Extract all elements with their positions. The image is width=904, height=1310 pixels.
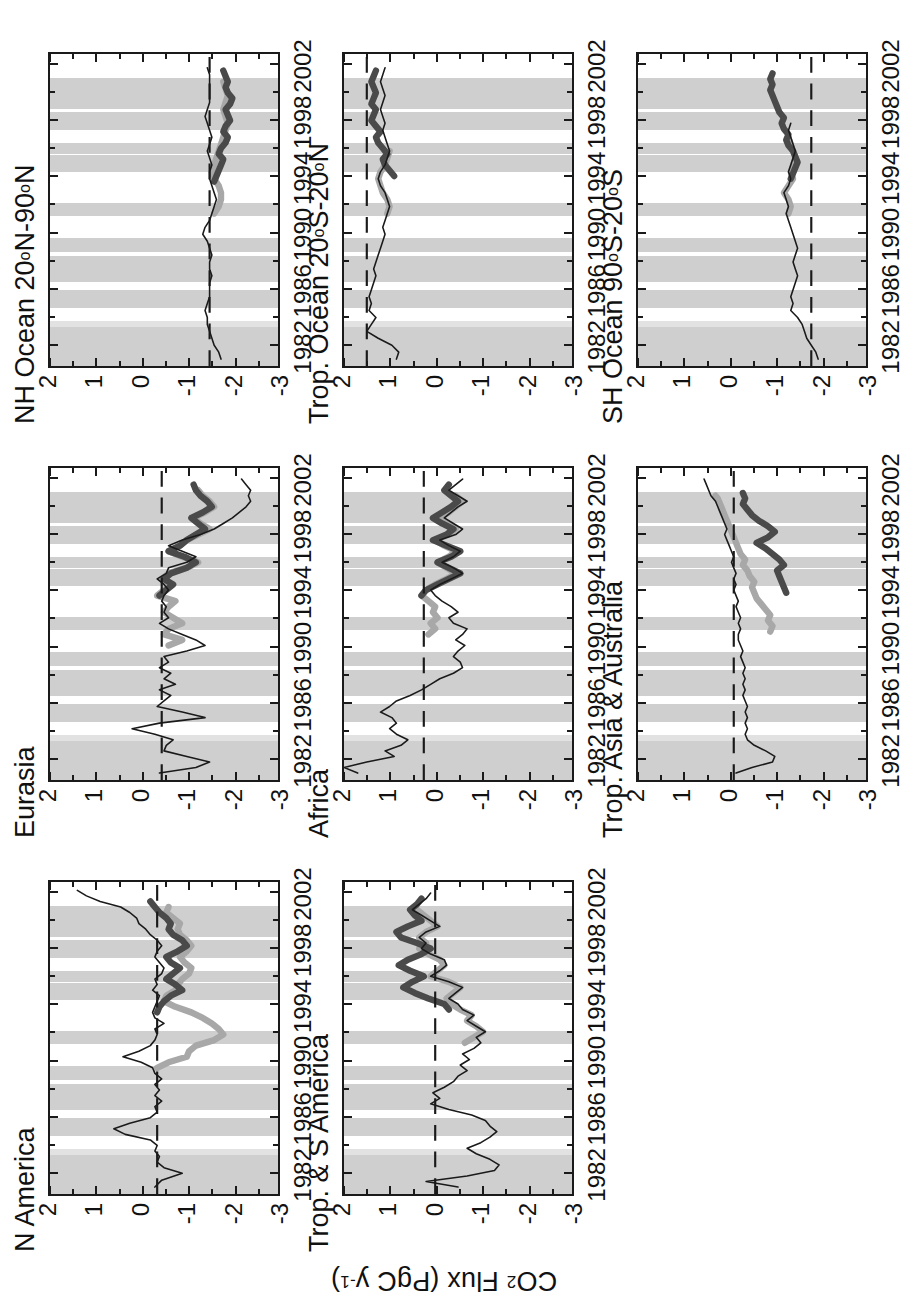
y-tick-mark-minor-right xyxy=(366,882,368,887)
y-tick-label: -2 xyxy=(514,1203,542,1224)
y-tick-mark xyxy=(343,358,345,366)
y-tick-mark-minor xyxy=(72,361,74,366)
panel-title-sh-ocean: SH Ocean 90oS-20oS xyxy=(592,50,634,424)
x-tick-mark-top xyxy=(344,477,352,479)
series-layer-trop-ocean xyxy=(344,54,572,366)
x-tick-mark-top xyxy=(344,344,352,346)
x-tick-mark xyxy=(564,232,572,234)
y-tick-label: 1 xyxy=(80,1203,108,1216)
panel-trop-s-america: Trop. & S America210-1-2-319821986199019… xyxy=(298,878,690,1252)
x-tick-mark-minor xyxy=(567,674,572,676)
y-tick-mark xyxy=(389,1186,391,1194)
y-tick-mark-right xyxy=(389,468,391,476)
y-tick-mark-minor xyxy=(505,775,507,780)
y-tick-label: 2 xyxy=(622,789,650,802)
y-tick-mark xyxy=(683,772,685,780)
x-tick-mark-top xyxy=(344,533,352,535)
x-tick-mark-top xyxy=(50,288,58,290)
x-tick-mark-top xyxy=(638,589,646,591)
y-tick-mark xyxy=(95,1186,97,1194)
y-tick-mark-minor xyxy=(119,775,121,780)
x-tick-mark-top xyxy=(50,589,58,591)
x-tick-mark xyxy=(270,758,278,760)
y-tick-mark-right xyxy=(142,54,144,62)
x-tick-mark-minor xyxy=(567,1032,572,1034)
x-tick-mark-top xyxy=(638,288,646,290)
y-tick-mark xyxy=(235,1186,237,1194)
x-tick-label: 1986 xyxy=(877,678,904,731)
y-tick-mark xyxy=(188,358,190,366)
x-tick-mark-minor-top xyxy=(50,91,55,93)
x-tick-mark xyxy=(564,288,572,290)
y-tick-mark-minor xyxy=(799,775,801,780)
y-tick-mark xyxy=(482,772,484,780)
x-tick-mark xyxy=(564,63,572,65)
x-tick-mark-top xyxy=(638,702,646,704)
x-tick-mark xyxy=(858,533,866,535)
y-tick-mark xyxy=(637,358,639,366)
y-tick-label: -3 xyxy=(854,789,882,810)
y-tick-mark-right xyxy=(683,468,685,476)
y-tick-label: 2 xyxy=(34,1203,62,1216)
y-tick-mark-minor-right xyxy=(258,468,260,473)
x-tick-mark-top xyxy=(638,119,646,121)
x-tick-mark-minor-top xyxy=(344,618,349,620)
y-tick-mark-minor-right xyxy=(799,468,801,473)
y-tick-mark-minor xyxy=(753,361,755,366)
y-tick-mark-minor-right xyxy=(366,54,368,59)
y-tick-mark xyxy=(142,772,144,780)
y-tick-label: -1 xyxy=(173,789,201,810)
plot-area-trop-s-america: 210-1-2-3198219861990199419982002 xyxy=(342,880,574,1196)
y-tick-mark xyxy=(683,358,685,366)
x-tick-mark xyxy=(270,477,278,479)
y-tick-mark xyxy=(637,772,639,780)
x-tick-mark-minor-top xyxy=(638,674,643,676)
y-tick-mark-minor xyxy=(165,1189,167,1194)
x-tick-mark-minor xyxy=(567,147,572,149)
y-tick-mark-minor-right xyxy=(413,882,415,887)
series-layer-trop-asia-australia xyxy=(638,468,866,780)
x-tick-mark xyxy=(858,63,866,65)
y-tick-label: 2 xyxy=(34,789,62,802)
x-tick-mark-top xyxy=(344,758,352,760)
x-tick-mark-minor xyxy=(861,561,866,563)
x-tick-mark-minor xyxy=(861,730,866,732)
x-tick-mark-minor xyxy=(567,1144,572,1146)
y-tick-mark-minor xyxy=(846,775,848,780)
y-tick-label: 0 xyxy=(715,375,743,388)
x-tick-mark xyxy=(564,1003,572,1005)
x-tick-mark xyxy=(270,288,278,290)
x-tick-mark xyxy=(564,344,572,346)
panel-title-africa: Africa xyxy=(298,464,340,838)
y-axis-label-subscript: 2 xyxy=(507,1271,517,1291)
x-tick-label: 1994 xyxy=(877,152,904,205)
x-tick-mark-minor-top xyxy=(638,204,643,206)
x-tick-mark-top xyxy=(50,533,58,535)
series-thin-black xyxy=(367,68,399,359)
y-tick-mark xyxy=(529,358,531,366)
y-tick-mark-minor xyxy=(258,361,260,366)
x-tick-mark-minor xyxy=(567,204,572,206)
x-tick-mark-minor-top xyxy=(50,919,55,921)
x-tick-mark-top xyxy=(638,477,646,479)
x-tick-mark-minor xyxy=(273,260,278,262)
y-tick-label: 2 xyxy=(328,789,356,802)
y-tick-mark-minor-right xyxy=(552,54,554,59)
y-tick-mark-minor-right xyxy=(211,468,213,473)
plot-box-africa xyxy=(342,466,574,782)
x-tick-mark-minor-top xyxy=(638,730,643,732)
y-tick-mark-minor-right xyxy=(753,468,755,473)
y-tick-mark-right xyxy=(529,54,531,62)
y-tick-mark-minor xyxy=(119,361,121,366)
y-tick-mark xyxy=(95,358,97,366)
y-tick-mark-right xyxy=(776,54,778,62)
x-tick-mark-minor xyxy=(861,316,866,318)
x-tick-mark xyxy=(564,477,572,479)
x-tick-mark xyxy=(858,344,866,346)
x-tick-mark-minor-top xyxy=(344,1144,349,1146)
y-tick-mark-minor xyxy=(413,361,415,366)
x-tick-label: 1994 xyxy=(583,980,611,1033)
x-tick-mark-top xyxy=(344,1060,352,1062)
y-tick-mark-minor-right xyxy=(505,468,507,473)
y-tick-label: 0 xyxy=(127,1203,155,1216)
